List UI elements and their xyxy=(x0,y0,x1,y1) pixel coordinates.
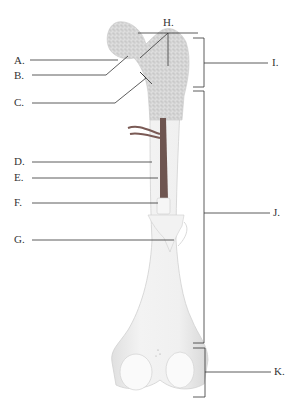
bone-shaft xyxy=(112,110,208,389)
label-a: A. xyxy=(14,55,25,66)
label-h: H. xyxy=(163,17,174,28)
femur-illustration xyxy=(0,0,297,407)
label-g: G. xyxy=(14,234,25,245)
label-k: K. xyxy=(274,366,285,377)
label-b: B. xyxy=(14,70,24,81)
label-i: I. xyxy=(272,57,278,68)
bracket-i xyxy=(193,38,204,87)
leader-c xyxy=(32,72,152,103)
lateral-condyle xyxy=(166,352,194,388)
leader-b xyxy=(32,56,128,75)
proximal-epiphysis xyxy=(107,22,189,120)
cut-off-header-text xyxy=(0,0,297,2)
medial-condyle xyxy=(120,354,152,390)
label-j: J. xyxy=(273,207,280,218)
bracket-j xyxy=(193,91,204,343)
label-f: F. xyxy=(14,197,22,208)
label-d: D. xyxy=(14,156,25,167)
compact-bone-cut xyxy=(157,198,170,214)
bone-diagram: A. B. C. D. E. F. G. H. I. J. K. xyxy=(0,0,297,407)
label-c: C. xyxy=(14,97,24,108)
label-e: E. xyxy=(14,172,23,183)
